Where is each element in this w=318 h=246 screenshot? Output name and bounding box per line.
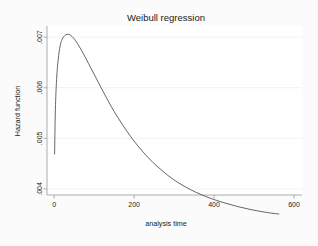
plot-area-background bbox=[47, 26, 302, 195]
y-tick-label: .007 bbox=[37, 30, 44, 44]
y-tick-label: .006 bbox=[37, 81, 44, 95]
chart-figure: .004.005.006.007 0200400600 Weibull regr… bbox=[0, 0, 318, 246]
y-axis-title: Hazard function bbox=[13, 86, 22, 136]
y-tick-label: .004 bbox=[37, 182, 44, 196]
x-tick-label: 0 bbox=[52, 201, 56, 208]
weibull-hazard-plot: .004.005.006.007 0200400600 Weibull regr… bbox=[0, 0, 318, 246]
x-tick-label: 600 bbox=[288, 201, 300, 208]
x-axis-title: analysis time bbox=[145, 219, 187, 228]
x-tick-label: 400 bbox=[208, 201, 220, 208]
x-tick-label: 200 bbox=[128, 201, 140, 208]
chart-title: Weibull regression bbox=[127, 12, 205, 23]
y-tick-label: .005 bbox=[37, 131, 44, 145]
